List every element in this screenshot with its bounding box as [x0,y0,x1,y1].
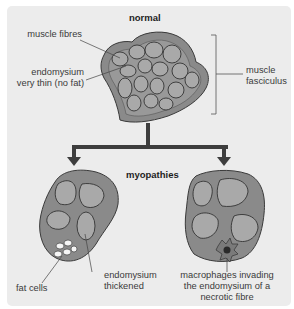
label-endomysium-thin-2: very thin (no fat) [10,78,84,89]
myopathy-macrophage [185,170,264,272]
label-fasciculus-1: muscle [246,65,275,76]
branch-arrows [67,123,231,166]
myopathy-fat-infiltration [40,170,119,283]
diagram-artwork [0,0,294,309]
label-macrophages-1: macrophages invading [170,270,284,281]
label-macrophages-3: necrotic fibre [170,292,284,303]
title-myopathies: myopathies [126,169,179,180]
fasciculus-bracket [211,35,243,114]
label-endomysium-thick-2: thickened [104,281,144,292]
normal-fasciculus [101,32,208,122]
label-endomysium-thick-1: endomysium [104,270,157,281]
title-normal: normal [129,12,161,23]
label-fasciculus-2: fasciculus [246,76,287,87]
label-muscle-fibres: muscle fibres [22,29,82,40]
label-macrophages-2: the endomysium of a [170,281,284,292]
label-fat-cells: fat cells [16,283,48,294]
label-endomysium-thin-1: endomysium [10,67,84,78]
